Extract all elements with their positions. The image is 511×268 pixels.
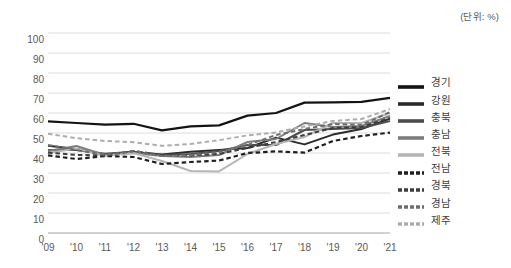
x-tick-label: '12 — [127, 243, 140, 253]
unit-note: (단위: %) — [460, 9, 499, 23]
legend-swatch-icon — [398, 164, 424, 174]
legend-label: 충북 — [431, 112, 451, 123]
legend-item-강원[interactable]: 강원 — [398, 91, 508, 108]
legend-item-충남[interactable]: 충남 — [398, 126, 508, 143]
plot-area — [0, 26, 400, 241]
legend-item-전북[interactable]: 전북 — [398, 143, 508, 160]
legend-swatch-icon — [398, 198, 424, 208]
x-tick-label: '14 — [184, 243, 197, 253]
line-chart-svg — [0, 26, 400, 241]
series-line-전남 — [48, 133, 390, 164]
x-tick-label: '09 — [41, 243, 54, 253]
legend-item-경남[interactable]: 경남 — [398, 194, 508, 211]
legend-swatch-icon — [398, 129, 424, 139]
series-lines — [48, 98, 390, 172]
legend-label: 강원 — [431, 95, 451, 106]
legend-swatch-icon — [398, 95, 424, 105]
legend-swatch-icon — [398, 78, 424, 88]
legend-label: 경기 — [431, 77, 451, 88]
x-tick-label: '15 — [212, 243, 225, 253]
legend-label: 전남 — [431, 163, 451, 174]
legend-label: 경남 — [431, 198, 451, 209]
legend: 경기강원충북충남전북전남경북경남제주 — [398, 74, 508, 229]
legend-swatch-icon — [398, 112, 424, 122]
x-tick-label: '17 — [269, 243, 282, 253]
legend-item-제주[interactable]: 제주 — [398, 212, 508, 229]
series-line-전북 — [48, 113, 390, 171]
legend-label: 충남 — [431, 129, 451, 140]
x-tick-label: '18 — [298, 243, 311, 253]
x-axis-tick-labels: '09'10'11'12'13'14'15'16'17'18'19'20'21 — [0, 243, 400, 263]
legend-item-전남[interactable]: 전남 — [398, 160, 508, 177]
legend-swatch-icon — [398, 215, 424, 225]
legend-label: 전북 — [431, 146, 451, 157]
legend-item-경북[interactable]: 경북 — [398, 177, 508, 194]
legend-item-충북[interactable]: 충북 — [398, 108, 508, 125]
x-tick-label: '13 — [155, 243, 168, 253]
legend-label: 제주 — [431, 215, 451, 226]
series-line-경기 — [48, 98, 390, 131]
legend-item-경기[interactable]: 경기 — [398, 74, 508, 91]
x-tick-label: '21 — [383, 243, 396, 253]
legend-swatch-icon — [398, 181, 424, 191]
chart-page: (단위: %) 0102030405060708090100 '09'10'11… — [0, 0, 511, 268]
x-tick-label: '16 — [241, 243, 254, 253]
legend-swatch-icon — [398, 146, 424, 156]
x-tick-label: '19 — [326, 243, 339, 253]
x-tick-label: '20 — [355, 243, 368, 253]
legend-label: 경북 — [431, 180, 451, 191]
x-tick-label: '10 — [70, 243, 83, 253]
x-tick-label: '11 — [99, 243, 111, 253]
